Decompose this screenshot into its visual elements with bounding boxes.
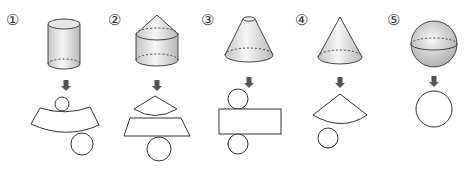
arrow-down-icon: [152, 80, 162, 91]
sphere-net: [416, 91, 452, 127]
arrow-down-icon: [244, 77, 254, 88]
cone-cylinder-net: [124, 96, 190, 161]
arrow-down-icon: [61, 80, 71, 91]
diagram-canvas: [0, 0, 469, 174]
cone-net: [313, 94, 367, 148]
cone-on-cylinder-solid: [136, 15, 178, 66]
cone-solid: [318, 17, 362, 64]
frustum-net: [219, 89, 281, 154]
sphere-solid: [411, 21, 457, 67]
cylinder-solid: [48, 19, 80, 69]
arrow-down-icon: [335, 77, 345, 88]
arrow-down-icon: [429, 76, 439, 87]
cylinder-net: [31, 97, 99, 155]
frustum-solid: [225, 17, 273, 62]
